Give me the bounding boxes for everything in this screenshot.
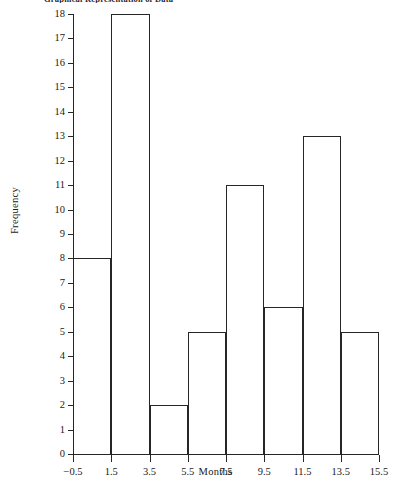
- y-tick-label: 10: [55, 203, 66, 216]
- y-tick-label: 13: [55, 129, 66, 142]
- y-tick-label: 7: [60, 276, 65, 289]
- y-tick-label: 5: [60, 325, 65, 338]
- x-tick-mark: [73, 455, 74, 462]
- y-tick-label: 11: [55, 178, 65, 191]
- y-tick-label: 15: [55, 80, 66, 93]
- y-tick-mark: [68, 112, 73, 113]
- y-tick-mark: [68, 87, 73, 88]
- histogram-bar: [264, 307, 302, 455]
- x-tick-mark: [111, 455, 112, 462]
- histogram-figure: Graphical Representation of Data Frequen…: [0, 0, 395, 486]
- x-tick-mark: [264, 455, 265, 462]
- y-tick-mark: [68, 234, 73, 235]
- x-tick-mark: [188, 455, 189, 462]
- histogram-bar: [73, 258, 111, 455]
- histogram-bar: [341, 332, 379, 455]
- y-tick-mark: [68, 210, 73, 211]
- y-tick-label: 4: [60, 349, 65, 362]
- y-tick-label: 1: [60, 423, 65, 436]
- y-tick-mark: [68, 63, 73, 64]
- y-tick-mark: [68, 161, 73, 162]
- x-tick-mark: [150, 455, 151, 462]
- y-tick-mark: [68, 185, 73, 186]
- histogram-bar: [226, 185, 264, 455]
- y-axis-title: Frequency: [9, 166, 20, 256]
- y-tick-label: 18: [55, 7, 66, 20]
- y-tick-label: 3: [60, 374, 65, 387]
- y-tick-label: 12: [55, 154, 66, 167]
- histogram-bar: [150, 405, 188, 455]
- histogram-bar: [188, 332, 226, 455]
- x-tick-mark: [226, 455, 227, 462]
- y-tick-mark: [68, 136, 73, 137]
- y-tick-label: 6: [60, 300, 65, 313]
- y-tick-mark: [68, 38, 73, 39]
- y-tick-label: 17: [55, 31, 66, 44]
- y-tick-label: 14: [55, 105, 66, 118]
- x-axis-title: Months: [73, 466, 358, 477]
- y-tick-mark: [68, 14, 73, 15]
- y-tick-label: 16: [55, 56, 66, 69]
- x-tick-mark: [303, 455, 304, 462]
- y-tick-label: 2: [60, 398, 65, 411]
- x-tick-mark: [341, 455, 342, 462]
- x-tick-label: 15.5: [370, 465, 388, 478]
- chart-title: Graphical Representation of Data: [44, 0, 244, 3]
- histogram-bar: [303, 136, 341, 455]
- plot-area: 0123456789101112131415161718 −0.51.53.55…: [73, 14, 379, 455]
- y-tick-label: 9: [60, 227, 65, 240]
- histogram-bar: [111, 14, 149, 455]
- y-tick-label: 8: [60, 251, 65, 264]
- x-tick-mark: [379, 455, 380, 462]
- y-tick-label: 0: [60, 447, 65, 460]
